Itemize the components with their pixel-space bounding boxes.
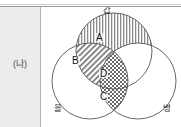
circle-label-byeong: 병 <box>163 104 171 113</box>
figure-label: (나) <box>0 59 40 69</box>
venn-diagram <box>42 7 181 127</box>
region-label-D: D <box>99 69 108 78</box>
region-label-C: C <box>99 92 108 101</box>
figure-root: (나) <box>0 0 181 127</box>
region-D-fill <box>42 7 181 127</box>
circle-label-gap: 갑 <box>103 7 111 15</box>
circle-label-eul: 을 <box>54 104 62 113</box>
table-cell-diagram: 갑 을 병 A B D C <box>42 7 181 127</box>
table-top-rule-light <box>0 4 181 5</box>
region-label-B: B <box>71 56 80 65</box>
table-cell-label: (나) <box>0 7 41 127</box>
region-label-A: A <box>95 33 104 42</box>
